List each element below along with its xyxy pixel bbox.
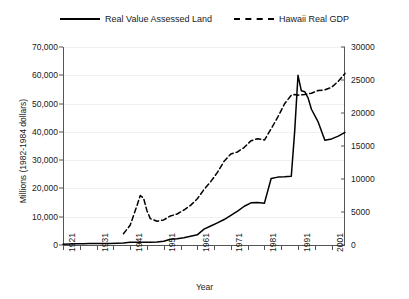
chart-legend: Real Value Assessed Land Hawaii Real GDP (0, 14, 409, 24)
y-axis-right-tick-label: 10000 (351, 174, 403, 184)
y-axis-left-tick-label: 60,000 (0, 70, 58, 80)
x-axis-tick-mark (197, 245, 198, 250)
x-axis-tick-mark (332, 245, 333, 250)
y-axis-right-tick-mark (341, 80, 345, 81)
y-axis-left-tick-label: 30,000 (0, 155, 58, 165)
x-axis-tick-mark (97, 245, 98, 250)
x-axis-tick-mark (130, 245, 131, 250)
y-axis-left-tick-mark (59, 160, 63, 161)
y-axis-left-tick-label: 70,000 (0, 42, 58, 52)
legend-swatch-solid-line (60, 15, 100, 23)
y-axis-right-tick-mark (341, 212, 345, 213)
gridline (64, 188, 344, 189)
x-axis-tick-label: 1941 (134, 233, 144, 252)
y-axis-left-tick-label: 40,000 (0, 127, 58, 137)
x-axis-tick-mark (315, 245, 316, 250)
y-axis-left-tick-label: 50,000 (0, 99, 58, 109)
x-axis-tick-mark (298, 245, 299, 250)
x-axis-tick-mark (281, 245, 282, 250)
y-axis-left-tick-mark (59, 216, 63, 217)
gridline (64, 75, 344, 76)
gridline (64, 47, 344, 48)
chart-container: Real Value Assessed Land Hawaii Real GDP… (0, 0, 409, 299)
plot-area (63, 47, 345, 245)
y-axis-right-tick-label: 30000 (351, 42, 403, 52)
y-axis-left-tick-mark (59, 103, 63, 104)
y-axis-left-tick-label: 20,000 (0, 183, 58, 193)
x-axis-tick-mark (80, 245, 81, 250)
y-axis-right-tick-mark (341, 179, 345, 180)
x-axis-tick-label: 1981 (268, 233, 278, 252)
gridline (64, 160, 344, 161)
gridlines (64, 47, 344, 245)
x-axis-tick-label: 1991 (302, 233, 312, 252)
y-axis-left-tick-label: 10,000 (0, 212, 58, 222)
x-axis-tick-label: 1961 (201, 233, 211, 252)
x-axis-tick-label: 1921 (67, 233, 77, 252)
x-axis-title: Year (0, 282, 409, 292)
y-axis-left-tick-mark (59, 131, 63, 132)
gridline (64, 132, 344, 133)
y-axis-right-tick-mark (341, 47, 345, 48)
x-axis-tick-mark (181, 245, 182, 250)
x-axis-tick-mark (264, 245, 265, 250)
legend-swatch-dashed-line (234, 15, 274, 23)
x-axis-tick-label: 1971 (234, 233, 244, 252)
x-axis-tick-mark (214, 245, 215, 250)
x-axis-tick-mark (248, 245, 249, 250)
gridline (64, 217, 344, 218)
y-axis-left-tick-mark (59, 75, 63, 76)
y-axis-right-tick-label: 25000 (351, 75, 403, 85)
legend-label-0: Real Value Assessed Land (105, 14, 212, 24)
y-axis-right-tick-label: 20000 (351, 108, 403, 118)
gridline (64, 104, 344, 105)
y-axis-left-title: Millions (1982-1984 dollars) (18, 76, 28, 226)
y-axis-left-tick-mark (59, 188, 63, 189)
x-axis-tick-label: 1951 (167, 233, 177, 252)
y-axis-right-tick-label: 0 (351, 240, 403, 250)
y-axis-left-tick-label: 0 (0, 240, 58, 250)
x-axis-tick-mark (231, 245, 232, 250)
y-axis-right-tick-mark (341, 146, 345, 147)
x-axis-tick-label: 1931 (100, 233, 110, 252)
y-axis-right-tick-label: 15000 (351, 141, 403, 151)
y-axis-right-tick-mark (341, 113, 345, 114)
x-axis-tick-mark (164, 245, 165, 250)
y-axis-right-tick-label: 5000 (351, 207, 403, 217)
y-axis-left-tick-mark (59, 47, 63, 48)
x-axis-tick-label: 2001 (335, 233, 345, 252)
x-axis-tick-mark (113, 245, 114, 250)
legend-label-1: Hawaii Real GDP (279, 14, 349, 24)
x-axis-tick-mark (147, 245, 148, 250)
x-axis-tick-mark (63, 245, 64, 250)
legend-item-real-value-assessed-land: Real Value Assessed Land (60, 14, 212, 24)
legend-item-hawaii-real-gdp: Hawaii Real GDP (234, 14, 349, 24)
y-axis-left-tick-mark (59, 245, 63, 246)
